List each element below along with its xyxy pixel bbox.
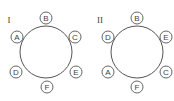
- seat-b: B: [40, 12, 52, 24]
- seat-c: C: [69, 31, 81, 43]
- seat-letter: E: [163, 33, 168, 42]
- seating-diagrams: IBACDEFIIBDEACF: [0, 0, 174, 101]
- seat-e: E: [160, 31, 172, 43]
- seat-c: C: [160, 66, 172, 78]
- seat-letter: C: [163, 68, 169, 77]
- diagram-label: I: [8, 15, 11, 25]
- seat-letter: A: [105, 68, 111, 77]
- seat-letter: E: [73, 68, 78, 77]
- seat-d: D: [10, 66, 22, 78]
- seat-b: B: [131, 12, 143, 24]
- seat-f: F: [41, 81, 53, 93]
- seat-a: A: [11, 31, 23, 43]
- seat-letter: F: [135, 83, 140, 92]
- seat-letter: F: [45, 83, 50, 92]
- seat-d: D: [102, 31, 114, 43]
- diagram-2: IIBDEACF: [97, 12, 172, 93]
- seat-letter: D: [13, 68, 19, 77]
- round-table: [111, 26, 163, 78]
- diagram-label: II: [97, 15, 103, 25]
- seat-letter: C: [72, 33, 78, 42]
- seat-e: E: [70, 66, 82, 78]
- seat-letter: B: [43, 14, 48, 23]
- seat-letter: B: [134, 14, 139, 23]
- diagram-canvas: IBACDEFIIBDEACF: [0, 0, 174, 101]
- seat-a: A: [102, 66, 114, 78]
- seat-letter: D: [105, 33, 111, 42]
- seat-letter: A: [14, 33, 20, 42]
- seat-f: F: [131, 81, 143, 93]
- round-table: [20, 26, 72, 78]
- diagram-1: IBACDEF: [8, 12, 83, 93]
